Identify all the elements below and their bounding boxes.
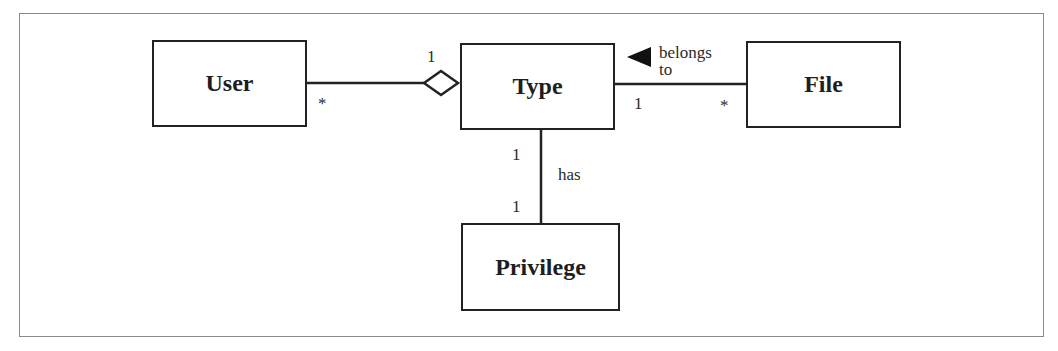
multiplicity-privilege: 1 [512,198,521,215]
multiplicity-user-star: * [318,95,327,112]
association-label-belongs: belongs [659,44,712,61]
class-file-name: File [804,71,843,98]
multiplicity-type-aggregation: 1 [427,48,436,65]
class-type[interactable]: Type [460,43,615,130]
class-user-name: User [206,70,254,97]
direction-arrow-left-icon [627,47,651,67]
class-type-name: Type [512,73,562,100]
class-privilege[interactable]: Privilege [461,223,620,311]
class-file[interactable]: File [746,41,901,128]
multiplicity-type-file: 1 [634,95,643,112]
class-user[interactable]: User [152,40,307,127]
multiplicity-type-privilege: 1 [512,146,521,163]
association-label-to: to [659,61,672,78]
association-label-has: has [558,166,581,183]
class-privilege-name: Privilege [495,254,586,281]
multiplicity-file-star: * [720,97,729,114]
aggregation-diamond-icon [424,71,458,95]
